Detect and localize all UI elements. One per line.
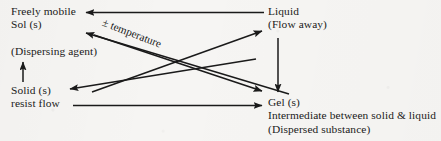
node-gel-line1: Gel (s) [268, 96, 436, 109]
node-solid-line1: Solid (s) [11, 84, 60, 97]
node-liquid-line2: (Flow away) [268, 18, 327, 31]
node-liquid: Liquid (Flow away) [268, 5, 327, 32]
sol-gel-transition-diagram: Freely mobile Sol (s) (Dispersing agent)… [0, 0, 441, 141]
node-sol-line2: Sol (s) [11, 18, 76, 31]
node-dispersing-agent-line1: (Dispersing agent) [11, 45, 97, 58]
node-gel-line3: (Dispersed substance) [268, 123, 436, 136]
node-sol-line1: Freely mobile [11, 5, 76, 18]
node-dispersing-agent: (Dispersing agent) [11, 45, 97, 58]
node-solid: Solid (s) resist flow [11, 84, 60, 111]
edge-liquid-to-solid [70, 59, 256, 89]
node-liquid-line1: Liquid [268, 5, 327, 18]
node-solid-line2: resist flow [11, 97, 60, 110]
node-gel-line2: Intermediate between solid & liquid [268, 109, 436, 122]
node-gel: Gel (s) Intermediate between solid & liq… [268, 96, 436, 136]
node-sol: Freely mobile Sol (s) [11, 5, 76, 32]
